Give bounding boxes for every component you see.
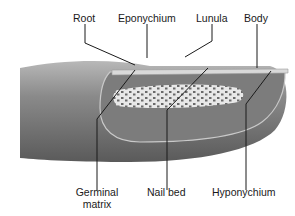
- label-lunula: Lunula: [196, 12, 228, 24]
- root-leader: [85, 24, 135, 65]
- fingernail-diagram: [0, 0, 295, 216]
- label-body: Body: [244, 12, 268, 24]
- label-eponychium: Eponychium: [118, 12, 176, 24]
- label-nail-bed: Nail bed: [147, 186, 186, 198]
- label-hyponychium: Hyponychium: [212, 186, 276, 198]
- label-germinal-matrix-line2: matrix: [73, 198, 121, 210]
- label-germinal-matrix: Germinal matrix: [73, 186, 121, 210]
- label-root: Root: [73, 12, 95, 24]
- label-germinal-matrix-line1: Germinal: [73, 186, 121, 198]
- lunula-leader: [185, 24, 212, 57]
